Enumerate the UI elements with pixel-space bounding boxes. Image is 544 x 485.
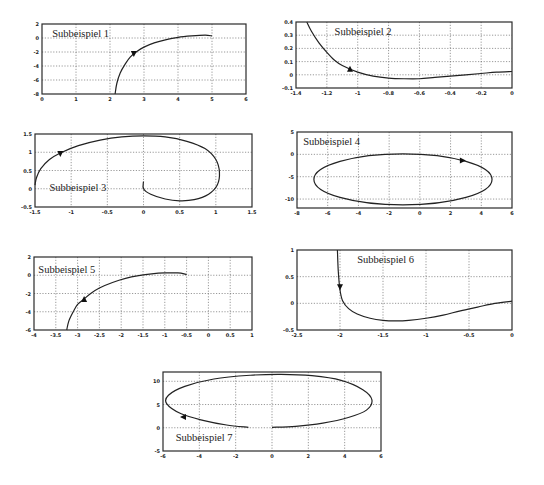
- x-tick-label: -2: [386, 210, 392, 216]
- x-tick-label: -1: [355, 90, 361, 96]
- x-tick-label: 1: [74, 96, 78, 102]
- x-tick-label: 0: [40, 96, 44, 102]
- y-tick-label: 0.5: [23, 168, 32, 174]
- x-tick-label: 0.5: [226, 332, 235, 338]
- subplot-title: Subbeispiel 2: [335, 26, 392, 37]
- subplot-6: -2.5-2-1.5-1-0.5010.50-0.5Subbeispiel 6: [297, 250, 512, 330]
- subplot-7: -6-4-202461050-5Subbeispiel 7: [163, 372, 381, 451]
- x-tick-label: 5: [210, 96, 214, 102]
- subplot-3: -1.5-1-0.500.511.51.510.50-0.5Subbeispie…: [35, 134, 252, 207]
- y-tick-label: -0.5: [21, 204, 32, 210]
- x-tick-label: 6: [510, 210, 514, 216]
- y-tick-label: -6: [25, 327, 31, 333]
- trajectory-curve: [165, 374, 372, 427]
- x-tick-label: 0: [510, 90, 514, 96]
- y-tick-label: 0: [291, 300, 295, 306]
- y-tick-label: 0: [29, 186, 33, 192]
- y-tick-label: 2: [36, 21, 40, 27]
- x-tick-label: 0: [418, 210, 422, 216]
- x-tick-label: -4: [197, 453, 203, 459]
- y-tick-label: 0: [157, 425, 161, 431]
- x-tick-label: 2: [108, 96, 112, 102]
- x-tick-label: -0.8: [383, 90, 394, 96]
- y-tick-label: 0: [291, 151, 295, 157]
- x-tick-label: 2: [307, 453, 311, 459]
- y-tick-label: 0.4: [284, 19, 293, 25]
- grid: [296, 22, 512, 88]
- x-tick-label: 0: [510, 332, 514, 338]
- x-tick-label: -0.5: [464, 332, 475, 338]
- y-tick-label: -6: [33, 77, 39, 83]
- direction-arrow-icon: [460, 158, 466, 164]
- y-tick-label: 2: [28, 254, 32, 260]
- y-tick-label: -0.5: [283, 327, 294, 333]
- x-tick-label: 2: [449, 210, 453, 216]
- x-tick-label: -0.2: [476, 90, 487, 96]
- y-tick-label: 0: [290, 72, 294, 78]
- x-tick-label: 3: [142, 96, 146, 102]
- y-tick-label: 0.2: [284, 45, 293, 51]
- y-tick-label: 0: [28, 272, 32, 278]
- x-tick-label: -1.2: [321, 90, 332, 96]
- x-tick-label: -6: [160, 453, 166, 459]
- subplot-title: Subbeispiel 7: [176, 432, 233, 443]
- x-tick-label: 6: [379, 453, 383, 459]
- x-tick-label: 1: [214, 209, 218, 215]
- y-tick-label: -5: [288, 174, 294, 180]
- y-tick-label: -2: [33, 49, 39, 55]
- x-tick-label: 0: [142, 209, 146, 215]
- y-tick-label: -5: [154, 448, 160, 454]
- x-tick-label: 0: [207, 332, 211, 338]
- x-tick-label: -0.6: [414, 90, 425, 96]
- y-tick-label: 0.1: [284, 59, 293, 65]
- subplot-title: Subbeispiel 4: [303, 136, 361, 147]
- x-tick-label: 0: [270, 453, 274, 459]
- subplot-5: -4-3.5-3-2.5-2-1.5-1-0.500.5120-2-4-6Sub…: [34, 257, 252, 330]
- subplot-4: -8-6-4-2024650-5-10Subbeispiel 4: [297, 132, 512, 208]
- x-tick-label: -8: [294, 210, 300, 216]
- subplot-2: -1.4-1.2-1-0.8-0.6-0.4-0.200.40.30.20.10…: [296, 22, 512, 88]
- subplot-title: Subbeispiel 1: [52, 28, 109, 39]
- x-tick-label: 6: [244, 96, 248, 102]
- x-tick-label: -3.5: [50, 332, 61, 338]
- x-tick-label: -0.5: [181, 332, 192, 338]
- x-tick-label: 0.5: [175, 209, 184, 215]
- subplot-title: Subbeispiel 6: [357, 254, 414, 265]
- x-tick-label: 4: [176, 96, 180, 102]
- x-tick-label: -0.5: [102, 209, 113, 215]
- axes-frame: [296, 22, 512, 88]
- y-tick-label: 5: [157, 402, 161, 408]
- subplot-title: Subbeispiel 3: [49, 182, 106, 193]
- x-tick-label: 4: [343, 453, 347, 459]
- y-tick-label: -8: [33, 91, 39, 97]
- y-tick-label: -2: [25, 291, 31, 297]
- y-tick-label: 0: [36, 35, 40, 41]
- x-tick-label: -2: [337, 332, 343, 338]
- x-tick-label: -3: [75, 332, 81, 338]
- x-tick-label: -0.4: [445, 90, 456, 96]
- y-tick-label: 1: [291, 247, 295, 253]
- y-tick-label: 5: [291, 129, 295, 135]
- y-tick-label: 1.5: [23, 131, 32, 137]
- x-tick-label: -1: [162, 332, 168, 338]
- direction-arrow-icon: [337, 284, 343, 290]
- x-tick-label: 1.5: [248, 209, 257, 215]
- trajectory-curve: [115, 35, 212, 94]
- x-tick-label: 1: [250, 332, 254, 338]
- y-tick-label: 10: [153, 378, 160, 384]
- x-tick-label: -1: [68, 209, 74, 215]
- x-tick-label: 4: [480, 210, 484, 216]
- x-tick-label: -4: [356, 210, 362, 216]
- trajectory-curve: [314, 154, 492, 205]
- x-tick-label: -6: [325, 210, 331, 216]
- x-tick-label: -2: [118, 332, 124, 338]
- y-tick-label: 1: [29, 149, 33, 155]
- x-tick-label: -2.5: [94, 332, 105, 338]
- subplot-1: 012345620-2-4-6-8Subbeispiel 1: [42, 24, 246, 94]
- x-tick-label: -1.5: [138, 332, 149, 338]
- x-tick-label: -1.5: [378, 332, 389, 338]
- y-tick-label: 0.3: [284, 32, 293, 38]
- y-tick-label: -0.1: [282, 85, 293, 91]
- x-tick-label: -1: [423, 332, 429, 338]
- y-tick-label: -4: [33, 63, 39, 69]
